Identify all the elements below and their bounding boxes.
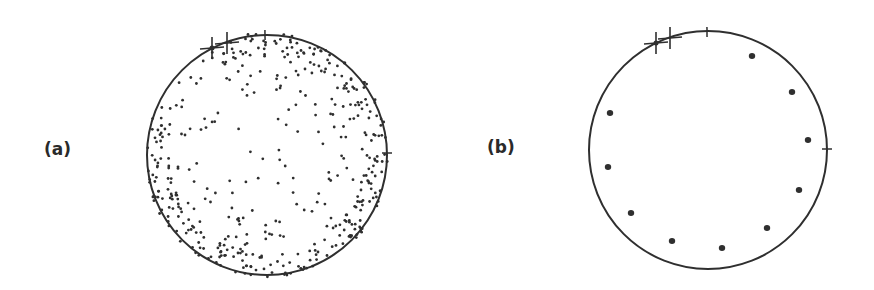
data-point (170, 181, 173, 184)
data-point (368, 117, 371, 120)
data-point (356, 195, 359, 198)
data-point (380, 134, 383, 137)
data-point (157, 196, 160, 199)
data-point (202, 236, 205, 239)
data-point (323, 238, 326, 241)
data-point (156, 164, 159, 167)
data-point (295, 70, 298, 73)
data-point (324, 203, 327, 206)
data-point (309, 61, 312, 64)
data-point (372, 133, 375, 136)
data-point (259, 70, 262, 73)
data-point (628, 210, 634, 216)
data-point (349, 118, 352, 121)
data-point (303, 52, 306, 55)
data-point (372, 164, 375, 167)
data-point (366, 103, 369, 106)
data-point (251, 209, 254, 212)
data-point (379, 124, 382, 127)
data-point (217, 112, 220, 115)
data-point (719, 245, 725, 251)
data-point (161, 136, 164, 139)
data-point (338, 234, 341, 237)
data-point (246, 242, 249, 245)
data-point (331, 245, 334, 248)
data-point (336, 65, 339, 68)
data-point (190, 228, 193, 231)
data-point (304, 68, 307, 71)
data-point (209, 201, 212, 204)
data-point (263, 47, 266, 50)
data-point (175, 194, 178, 197)
stereonet-a (146, 30, 392, 278)
data-point (239, 50, 242, 53)
data-point (187, 218, 190, 221)
data-point (228, 179, 231, 182)
data-point (223, 244, 226, 247)
data-point (160, 106, 163, 109)
data-point (317, 251, 320, 254)
data-point (281, 50, 284, 53)
data-point (381, 160, 384, 163)
data-point (276, 260, 279, 263)
data-point (159, 157, 162, 160)
data-point (217, 247, 220, 250)
data-point (204, 197, 207, 200)
data-point (268, 233, 271, 236)
data-point (314, 103, 317, 106)
data-point (199, 220, 202, 223)
data-point (796, 187, 802, 193)
data-point (213, 120, 216, 123)
data-point (329, 179, 332, 182)
data-point (336, 174, 339, 177)
data-point (318, 65, 321, 68)
data-point (278, 158, 281, 161)
data-point (332, 227, 335, 230)
data-point (232, 255, 235, 258)
data-point (296, 42, 299, 45)
data-point (172, 207, 175, 210)
data-point (261, 157, 264, 160)
data-point (369, 110, 372, 113)
data-point (340, 75, 343, 78)
data-point (374, 192, 377, 195)
data-point (332, 113, 335, 116)
data-point (313, 63, 316, 66)
data-point (154, 180, 157, 183)
data-point (253, 91, 256, 94)
data-point (223, 254, 226, 257)
data-point (358, 226, 361, 229)
data-point (359, 209, 362, 212)
data-point (227, 235, 230, 238)
data-point (231, 48, 234, 51)
data-point (308, 250, 311, 253)
data-point (297, 265, 300, 268)
data-point (193, 180, 196, 183)
data-point (314, 114, 317, 117)
data-point (244, 51, 247, 54)
scatter-points-b (605, 53, 811, 251)
data-point (330, 217, 333, 220)
data-point (188, 168, 191, 171)
data-point (168, 123, 171, 126)
data-point (154, 136, 157, 139)
data-point (295, 103, 298, 106)
data-point (155, 141, 158, 144)
data-point (354, 104, 357, 107)
data-point (342, 87, 345, 90)
data-point (351, 86, 354, 89)
data-point (607, 110, 613, 116)
data-point (326, 59, 329, 62)
data-point (167, 188, 170, 191)
data-point (263, 268, 266, 271)
data-point (159, 133, 162, 136)
data-point (170, 177, 173, 180)
data-point (313, 48, 316, 51)
data-point (211, 121, 214, 124)
data-point (335, 244, 338, 247)
data-point (289, 61, 292, 64)
data-point (365, 134, 368, 137)
data-point (241, 88, 244, 91)
data-point (274, 220, 277, 223)
data-point (292, 177, 295, 180)
